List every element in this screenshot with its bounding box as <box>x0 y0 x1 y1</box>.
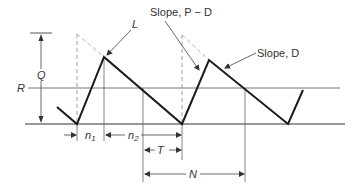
label-l: L <box>132 18 138 30</box>
slope-d-leader-line <box>225 53 256 68</box>
l-leader-line <box>107 30 131 55</box>
q-arrow-up-icon <box>39 34 44 41</box>
label-r: R <box>17 82 25 94</box>
q-arrow-down-icon <box>39 116 44 123</box>
dashed-slope-1 <box>77 34 104 57</box>
label-slope-p-minus-d: Slope, P − D <box>150 6 212 18</box>
label-n1: n1 <box>85 129 96 143</box>
inventory-level-curve <box>57 57 303 124</box>
label-n: N <box>189 168 197 180</box>
dashed-slope-2 <box>182 35 209 60</box>
inventory-diagram: Q R L Slope, P − D Slope, D n1 n2 T N <box>0 0 354 191</box>
label-slope-d: Slope, D <box>257 47 299 59</box>
label-q: Q <box>37 69 46 81</box>
label-t: T <box>157 144 165 156</box>
label-n2: n2 <box>128 129 139 143</box>
